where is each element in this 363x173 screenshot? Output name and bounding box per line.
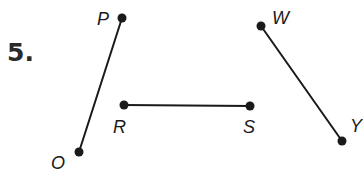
segment-WY	[261, 26, 342, 141]
segments-canvas	[0, 0, 363, 173]
point-P-label: P	[97, 10, 109, 28]
point-P-dot	[118, 14, 127, 23]
point-S-dot	[246, 102, 255, 111]
point-Y-label: Y	[350, 117, 362, 135]
segment-RS	[124, 105, 250, 106]
point-W-label: W	[272, 9, 289, 27]
point-Y-dot	[338, 137, 347, 146]
point-W-dot	[257, 22, 266, 31]
point-S-label: S	[243, 118, 255, 136]
point-O-label: O	[51, 154, 65, 172]
point-R-dot	[120, 101, 129, 110]
point-R-label: R	[113, 118, 126, 136]
diagram-stage: 5. P O R S W Y	[0, 0, 363, 173]
point-O-dot	[75, 148, 84, 157]
